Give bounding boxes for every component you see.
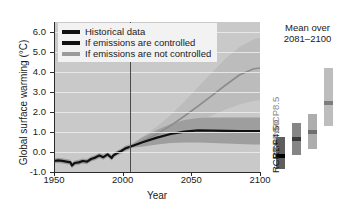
chart-legend: Historical dataIf emissions are controll… (58, 23, 217, 62)
y-tick-label: 1.0 (33, 127, 46, 137)
legend-item: Historical data (62, 26, 211, 37)
rcp-mean-marker (308, 130, 317, 134)
legend-swatch (62, 52, 80, 56)
y-tick-label: 0.0 (33, 147, 46, 157)
gridline (54, 112, 260, 113)
y-tick-label: 2.0 (33, 107, 46, 117)
rcp-mean-marker (292, 137, 301, 141)
legend-swatch (62, 30, 80, 34)
inset-title-line2: 2081–2100 (284, 33, 332, 44)
x-axis-line (54, 172, 260, 173)
x-tick-label: 1950 (43, 175, 64, 185)
legend-swatch (62, 41, 80, 45)
inset-title-line1: Mean over (285, 22, 330, 33)
x-tick-label: 2050 (181, 175, 202, 185)
y-tick-label: 4.0 (33, 67, 46, 77)
historical-uncertainty-band (54, 144, 130, 168)
x-tick-mark (191, 172, 192, 176)
rcp-mean-marker (324, 101, 333, 105)
x-tick-mark (123, 172, 124, 176)
y-axis-line (54, 22, 55, 172)
y-tick-label: 6.0 (33, 27, 46, 37)
x-tick-mark (54, 172, 55, 176)
rcp-range-bar (324, 68, 333, 126)
gridline (54, 132, 260, 133)
rcp-bars: RCP2.6RCP4.5RCP6.0RCP8.5 (262, 50, 353, 194)
inset-mean-panel: Mean over 2081–2100 RCP2.6RCP4.5RCP6.0RC… (262, 22, 353, 215)
x-tick-label: 2100 (249, 175, 270, 185)
gridline (54, 72, 260, 73)
x-tick-mark (260, 172, 261, 176)
legend-item: If emissions are controlled (62, 37, 211, 48)
legend-label: If emissions are not controlled (85, 49, 211, 59)
inset-panel-title: Mean over 2081–2100 (262, 22, 353, 44)
rcp-bar-label: RCP8.5 (271, 97, 281, 130)
y-tick-label: 5.0 (33, 47, 46, 57)
gridline (54, 92, 260, 93)
legend-label: If emissions are controlled (85, 38, 195, 48)
x-tick-label: 2000 (112, 175, 133, 185)
gridline (54, 152, 260, 153)
legend-label: Historical data (85, 27, 145, 37)
climate-projection-chart: Global surface warming (°C) 6.05.04.03.0… (0, 0, 353, 215)
x-axis-title: Year (54, 190, 260, 201)
y-tick-label: 3.0 (33, 87, 46, 97)
legend-item: If emissions are not controlled (62, 48, 211, 59)
